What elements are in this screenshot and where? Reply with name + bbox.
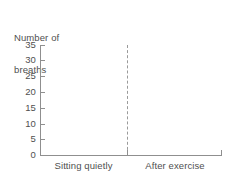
y-tick-mark-30 bbox=[41, 60, 45, 61]
y-tick-label-0: 0 bbox=[10, 150, 36, 160]
x-axis-end-tick bbox=[221, 150, 222, 155]
y-tick-label-5: 5 bbox=[10, 134, 36, 144]
x-axis-divider-tick bbox=[127, 150, 128, 156]
y-tick-label-15: 15 bbox=[10, 103, 36, 113]
category-divider-dashed-line bbox=[127, 45, 128, 155]
y-tick-label-20: 20 bbox=[10, 87, 36, 97]
y-tick-label-10: 10 bbox=[10, 119, 36, 129]
y-tick-mark-35 bbox=[41, 45, 45, 46]
x-axis-category-label-after-exercise: After exercise bbox=[128, 160, 222, 171]
y-tick-mark-25 bbox=[41, 76, 45, 77]
y-tick-mark-20 bbox=[41, 92, 45, 93]
y-tick-label-30: 30 bbox=[10, 55, 36, 65]
y-tick-mark-5 bbox=[41, 139, 45, 140]
y-axis-title: Number of breaths bbox=[14, 12, 59, 96]
y-tick-label-25: 25 bbox=[10, 71, 36, 81]
y-tick-mark-10 bbox=[41, 124, 45, 125]
y-tick-label-35: 35 bbox=[10, 40, 36, 50]
x-axis-category-label-sitting-quietly: Sitting quietly bbox=[40, 160, 127, 171]
breaths-bar-chart: Number of breaths 35 30 25 20 15 10 5 0 … bbox=[0, 0, 242, 179]
y-tick-mark-0 bbox=[41, 155, 45, 156]
x-axis-line bbox=[40, 155, 222, 156]
y-tick-mark-15 bbox=[41, 108, 45, 109]
